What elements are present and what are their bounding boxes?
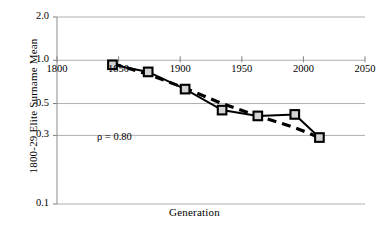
y-tick-label: 0.5	[15, 97, 49, 108]
x-tick-label: 1900	[157, 63, 203, 74]
y-tick-marks	[53, 17, 57, 204]
x-tick-marks	[57, 56, 365, 62]
x-tick-label: 2000	[280, 63, 326, 74]
x-tick-label: 1800	[34, 63, 80, 74]
chart-figure: 1800-29 Elite Surname Mean Generation ρ …	[0, 0, 389, 234]
y-tick-label: 0.1	[15, 197, 49, 208]
y-tick-label: 0.3	[15, 128, 49, 139]
x-tick-label: 1850	[96, 63, 142, 74]
x-tick-label: 1950	[219, 63, 265, 74]
gridlines	[57, 17, 365, 204]
x-tick-label: 2050	[342, 63, 388, 74]
rho-annotation: ρ = 0.80	[97, 131, 132, 142]
plot-area	[0, 0, 389, 234]
x-axis-title: Generation	[0, 206, 389, 218]
y-tick-label: 2.0	[15, 10, 49, 21]
